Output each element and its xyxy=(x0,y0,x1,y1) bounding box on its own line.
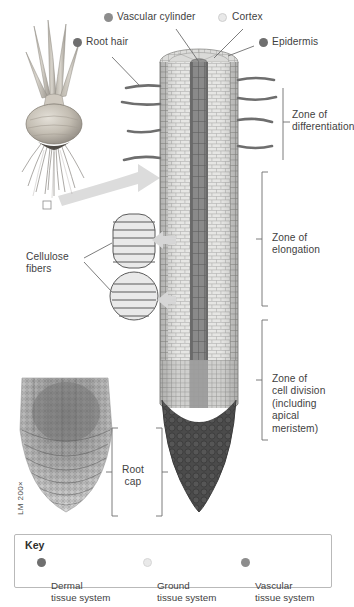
zone-cell-division-label: Zone of cell division (including apical … xyxy=(272,373,325,435)
onion-plant-illustration xyxy=(22,20,84,209)
key-title: Key xyxy=(25,539,44,551)
zone-differentiation-label: Zone of differentiation xyxy=(292,109,354,134)
root-hair-dot xyxy=(73,38,82,47)
key-item-vascular: Vascular tissue system xyxy=(241,557,314,607)
key-item-dermal-label: Dermal tissue system xyxy=(51,580,110,603)
key-item-vascular-label: Vascular tissue system xyxy=(255,580,314,603)
vascular-cylinder-dot xyxy=(104,13,113,22)
ground-swatch xyxy=(143,558,152,567)
cortex-label: Cortex xyxy=(232,11,263,23)
epidermis-label: Epidermis xyxy=(272,36,318,48)
key-item-dermal: Dermal tissue system xyxy=(37,557,110,607)
cellulose-fibers-label: Cellulose fibers xyxy=(26,251,69,276)
key-item-ground: Ground tissue system xyxy=(143,557,216,607)
vascular-swatch xyxy=(241,558,250,567)
root-cap-label: Root cap xyxy=(122,464,144,489)
cellulose-cell-inset-elongated xyxy=(113,214,155,268)
magnify-arrow-icon xyxy=(58,164,160,206)
cellulose-cell-inset-round xyxy=(110,272,158,320)
sample-region-marker xyxy=(43,201,51,209)
root-cap-structure xyxy=(158,392,242,520)
zone-elongation-label: Zone of elongation xyxy=(272,232,320,257)
cortex-dot xyxy=(218,13,227,22)
key-legend: Key Dermal tissue system Ground tissue s… xyxy=(14,534,332,588)
root-hair-label: Root hair xyxy=(86,36,128,48)
epidermis-dot xyxy=(259,38,268,47)
vascular-cylinder-label: Vascular cylinder xyxy=(117,11,196,23)
key-item-ground-label: Ground tissue system xyxy=(157,580,216,603)
light-micrograph xyxy=(18,376,116,516)
micrograph-scale-label: LM 200× xyxy=(16,481,25,515)
dermal-swatch xyxy=(37,558,46,567)
root-body xyxy=(160,58,238,408)
